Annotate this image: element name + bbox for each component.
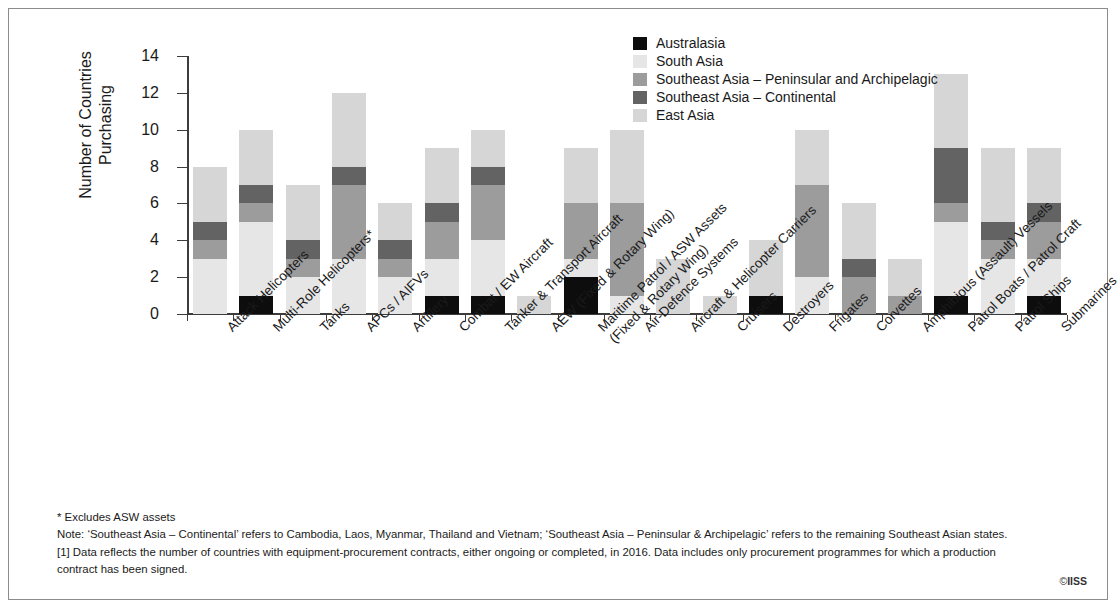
y-axis-title-line1: Number of Countries <box>76 0 96 250</box>
bar-3[interactable] <box>332 93 366 314</box>
y-tick-label-6: 6 <box>125 195 159 211</box>
bar-segment <box>471 130 505 167</box>
x-label-line: Tanks <box>317 324 329 336</box>
bar-segment <box>610 130 644 204</box>
x-label-7: AEW (Fixed & Rotary Wing) <box>548 324 560 336</box>
bar-segment <box>193 222 227 240</box>
x-label-8: Maritime Patrol / ASW Assets(Fixed & Rot… <box>595 324 618 347</box>
legend-label: Southeast Asia – Peninsular and Archipel… <box>656 72 938 86</box>
legend-item-2[interactable]: Southeast Asia – Peninsular and Archipel… <box>633 71 938 88</box>
x-label-line: Combat / EW Aircraft <box>456 324 468 336</box>
x-label-11: Cruisers <box>734 324 746 336</box>
x-label-0: Attack Helicopters <box>224 324 236 336</box>
bar-segment <box>378 259 412 277</box>
bar-segment <box>193 167 227 222</box>
x-label-line: AEW (Fixed & Rotary Wing) <box>548 324 560 336</box>
x-label-line: Submarines <box>1058 324 1070 336</box>
x-label-line: Frigates <box>826 324 838 336</box>
legend-label: Australasia <box>656 36 725 50</box>
legend-swatch-icon <box>633 55 647 68</box>
bar-segment <box>842 259 876 277</box>
x-label-line: Patrol Boats / Patrol Craft <box>965 324 977 336</box>
x-label-18: Submarines <box>1058 324 1070 336</box>
bar-segment <box>934 148 968 203</box>
legend-label: East Asia <box>656 108 714 122</box>
bar-segment <box>332 93 366 167</box>
y-tick-label-8: 8 <box>125 159 159 175</box>
x-label-12: Destroyers <box>780 324 792 336</box>
bar-segment <box>795 130 829 185</box>
y-axis-title: Number of Countries Purchasing <box>76 0 116 250</box>
y-tick-label-4: 4 <box>125 232 159 248</box>
legend: AustralasiaSouth AsiaSoutheast Asia – Pe… <box>633 35 938 125</box>
legend-item-3[interactable]: Southeast Asia – Continental <box>633 89 938 106</box>
y-tick-label-10: 10 <box>125 122 159 138</box>
x-label-line: Tanker & Transport Aircraft <box>502 324 514 336</box>
x-label-13: Frigates <box>826 324 838 336</box>
y-tick-label-14: 14 <box>125 48 159 64</box>
x-label-line: Destroyers <box>780 324 792 336</box>
bar-segment <box>286 185 320 240</box>
footnote-data-1: [1] Data reflects the number of countrie… <box>57 544 1077 561</box>
legend-item-0[interactable]: Australasia <box>633 35 938 52</box>
y-tick-label-12: 12 <box>125 85 159 101</box>
x-tick-0 <box>187 315 188 321</box>
bar-segment <box>425 222 459 259</box>
bar-segment <box>193 240 227 258</box>
x-label-line: Amphibious (Assault) Vessels <box>919 324 931 336</box>
chart-frame: Number of Countries Purchasing 024681012… <box>8 8 1108 600</box>
legend-swatch-icon <box>633 73 647 86</box>
x-label-5: Combat / EW Aircraft <box>456 324 468 336</box>
legend-label: South Asia <box>656 54 723 68</box>
x-label-line: Attack Helicopters <box>224 324 236 336</box>
bar-segment <box>934 74 968 148</box>
y-tick-label-0: 0 <box>125 306 159 322</box>
x-label-9: Air-Defence Systems <box>641 324 653 336</box>
x-label-line: Artillery <box>409 324 421 336</box>
bar-segment <box>425 148 459 203</box>
x-label-line: Patrol Ships <box>1012 324 1024 336</box>
bar-segment <box>239 185 273 203</box>
x-label-line: Multi-Role Helicopters* <box>270 324 282 336</box>
x-label-6: Tanker & Transport Aircraft <box>502 324 514 336</box>
legend-label: Southeast Asia – Continental <box>656 90 836 104</box>
copyright-symbol: © <box>1059 575 1067 587</box>
footnote-asterisk: * Excludes ASW assets <box>57 509 1077 526</box>
x-label-4: Artillery <box>409 324 421 336</box>
legend-item-4[interactable]: East Asia <box>633 107 938 124</box>
bar-segment <box>425 203 459 221</box>
x-label-line: (Fixed & Rotary Wing) <box>606 336 618 348</box>
legend-swatch-icon <box>633 37 647 50</box>
bar-segment <box>981 148 1015 222</box>
x-label-line: Maritime Patrol / ASW Assets <box>595 324 607 336</box>
legend-item-1[interactable]: South Asia <box>633 53 938 70</box>
x-label-line: Cruisers <box>734 324 746 336</box>
bar-segment <box>193 259 227 314</box>
y-tick-label-2: 2 <box>125 269 159 285</box>
x-label-1: Multi-Role Helicopters* <box>270 324 282 336</box>
chart-page: Number of Countries Purchasing 024681012… <box>0 0 1118 610</box>
x-label-line: Corvettes <box>873 324 885 336</box>
bar-segment <box>378 240 412 258</box>
footnote-note: Note: ‘Southeast Asia – Continental’ ref… <box>57 526 1077 543</box>
bar-0[interactable] <box>193 167 227 314</box>
copyright-owner: IISS <box>1067 575 1087 587</box>
bar-segment <box>332 167 366 185</box>
x-label-3: APCs / AIFVs <box>363 324 375 336</box>
bar-segment <box>471 185 505 240</box>
x-label-14: Corvettes <box>873 324 885 336</box>
x-label-15: Amphibious (Assault) Vessels <box>919 324 931 336</box>
bar-5[interactable] <box>425 148 459 314</box>
bar-segment <box>934 203 968 221</box>
bar-segment <box>239 130 273 185</box>
bar-segment <box>471 167 505 185</box>
footnotes: * Excludes ASW assets Note: ‘Southeast A… <box>57 509 1077 578</box>
x-label-2: Tanks <box>317 324 329 336</box>
bar-segment <box>378 203 412 240</box>
x-label-line: Aircraft & Helicopter Carriers <box>687 324 699 336</box>
copyright: ©IISS <box>1059 575 1087 587</box>
bar-segment <box>239 203 273 221</box>
bar-segment <box>564 148 598 203</box>
legend-swatch-icon <box>633 109 647 122</box>
x-label-line: Air-Defence Systems <box>641 324 653 336</box>
